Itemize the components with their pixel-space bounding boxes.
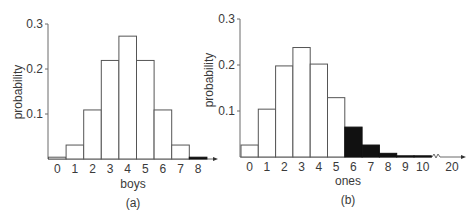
bar-2 <box>84 110 102 159</box>
x-tick-label: 5 <box>333 160 340 174</box>
x-tick-label: 4 <box>124 162 131 176</box>
x-tick-label: 0 <box>246 160 253 174</box>
bar-7 <box>362 145 379 157</box>
x-tick-label: 3 <box>298 160 305 174</box>
x-axis-label-b: ones <box>335 174 361 188</box>
y-ticks-b: 0.10.20.3 <box>218 12 240 118</box>
bar-10 <box>414 156 431 157</box>
bars-a <box>49 36 207 159</box>
x-tick-label: 5 <box>142 162 149 176</box>
bar-7 <box>172 145 190 159</box>
y-tick-label: 0.1 <box>218 104 235 118</box>
x-tick-label: 6 <box>350 160 357 174</box>
bar-8 <box>379 153 396 157</box>
x-tick-label: 8 <box>195 162 202 176</box>
x-tick-label: 2 <box>281 160 288 174</box>
bar-0 <box>241 145 258 157</box>
bar-4 <box>119 36 137 159</box>
x-axis-arrow-a <box>213 157 218 161</box>
chart-a: 0.10.20.3 012345678 probability boys (a) <box>11 17 218 210</box>
chart-b: 0.10.20.3 01234567891020 probability one… <box>202 12 466 207</box>
x-tick-label: 20 <box>445 160 459 174</box>
bars-b <box>241 48 431 157</box>
bar-3 <box>101 60 119 159</box>
bar-9 <box>397 156 414 157</box>
bar-8 <box>189 157 207 159</box>
x-axis-label-a: boys <box>120 177 145 191</box>
y-ticks-a: 0.10.20.3 <box>26 17 48 121</box>
x-tick-label: 7 <box>177 162 184 176</box>
x-tick-label: 1 <box>72 162 79 176</box>
bar-3 <box>293 48 310 157</box>
bar-1 <box>258 109 275 157</box>
y-tick-label: 0.3 <box>218 12 235 26</box>
bar-1 <box>66 145 84 159</box>
x-ticks-a: 012345678 <box>54 162 202 176</box>
bar-0 <box>49 157 67 159</box>
bar-6 <box>154 110 172 159</box>
x-tick-label: 0 <box>54 162 61 176</box>
bar-5 <box>137 60 155 159</box>
caption-b: (b) <box>341 193 356 207</box>
x-tick-label: 10 <box>416 160 430 174</box>
x-tick-label: 8 <box>385 160 392 174</box>
y-tick-label: 0.2 <box>26 62 43 76</box>
bar-2 <box>276 66 293 157</box>
x-axis-arrow-b <box>461 155 466 159</box>
bar-5 <box>328 98 345 157</box>
y-tick-label: 0.2 <box>218 58 235 72</box>
figure: 0.10.20.3 012345678 probability boys (a)… <box>0 0 475 219</box>
x-tick-label: 6 <box>160 162 167 176</box>
x-tick-label: 7 <box>367 160 374 174</box>
x-tick-label: 1 <box>264 160 271 174</box>
x-ticks-b: 01234567891020 <box>246 160 459 174</box>
bar-6 <box>345 127 362 157</box>
caption-a: (a) <box>126 196 141 210</box>
bar-4 <box>310 64 327 157</box>
x-tick-label: 2 <box>89 162 96 176</box>
y-tick-label: 0.3 <box>26 17 43 31</box>
y-tick-label: 0.1 <box>26 107 43 121</box>
axis-break-icon <box>432 154 440 158</box>
y-axis-label-b: probability <box>202 53 216 108</box>
x-tick-label: 3 <box>107 162 114 176</box>
y-axis-label-a: probability <box>11 65 25 120</box>
x-tick-label: 4 <box>316 160 323 174</box>
x-tick-label: 9 <box>402 160 409 174</box>
